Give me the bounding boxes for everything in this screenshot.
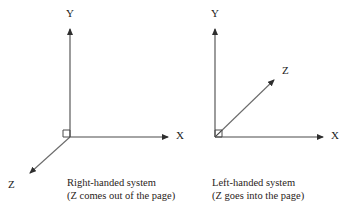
left-handed-z-axis-label: Z: [282, 65, 289, 76]
left-handed-caption-line1: Left-handed system: [212, 177, 304, 190]
left-handed-caption: Left-handed system (Z goes into the page…: [212, 177, 304, 202]
left-handed-y-axis-label: Y: [211, 8, 219, 19]
left-handed-x-axis-label: X: [331, 130, 339, 141]
right-handed-caption-line2: (Z comes out of the page): [67, 190, 175, 203]
right-handed-y-axis-label: Y: [66, 8, 74, 19]
left-handed-axes-group: [215, 29, 323, 137]
right-handed-z-axis-label: Z: [8, 179, 15, 190]
right-handed-axes-group: [30, 29, 168, 173]
left-handed-caption-line2: (Z goes into the page): [212, 190, 304, 203]
left-handed-z-axis: [215, 80, 274, 137]
figure-canvas: Y X Z Y X Z Right-handed system (Z comes…: [0, 0, 346, 216]
right-handed-caption: Right-handed system (Z comes out of the …: [67, 177, 175, 202]
right-handed-right-angle-marker: [63, 130, 70, 137]
right-handed-z-axis: [30, 137, 70, 173]
right-handed-caption-line1: Right-handed system: [67, 177, 175, 190]
right-handed-x-axis-label: X: [176, 130, 184, 141]
left-handed-right-angle-diagonal: [215, 130, 222, 137]
